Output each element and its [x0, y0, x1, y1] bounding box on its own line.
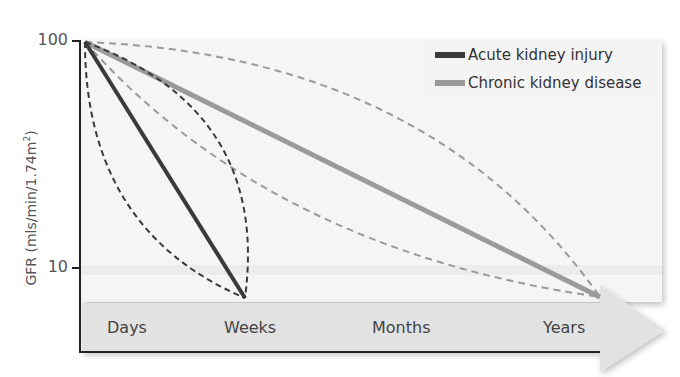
x-label-weeks: Weeks	[224, 318, 276, 337]
legend: Acute kidney injury Chronic kidney disea…	[425, 40, 657, 102]
aki-swatch-icon	[435, 52, 465, 58]
x-label-months: Months	[372, 318, 430, 337]
y-tick-label-100: 100	[18, 30, 68, 49]
legend-item-ckd: Chronic kidney disease	[435, 74, 641, 92]
legend-item-aki: Acute kidney injury	[435, 46, 613, 64]
y-axis-title-sup: 2	[22, 136, 32, 142]
legend-label-aki: Acute kidney injury	[468, 46, 613, 64]
x-label-years: Years	[543, 318, 585, 337]
legend-label-ckd: Chronic kidney disease	[468, 74, 641, 92]
y-axis-title-end: )	[23, 130, 39, 135]
band-stripe	[82, 265, 662, 275]
y-axis-title-text: GFR (mls/min/1.74m	[23, 142, 39, 286]
y-axis-title: GFR (mls/min/1.74m2)	[22, 130, 39, 285]
x-label-days: Days	[107, 318, 147, 337]
ckd-swatch-icon	[435, 80, 465, 86]
gfr-chart: 100 10 GFR (mls/min/1.74m2) Days Weeks M…	[0, 0, 680, 377]
